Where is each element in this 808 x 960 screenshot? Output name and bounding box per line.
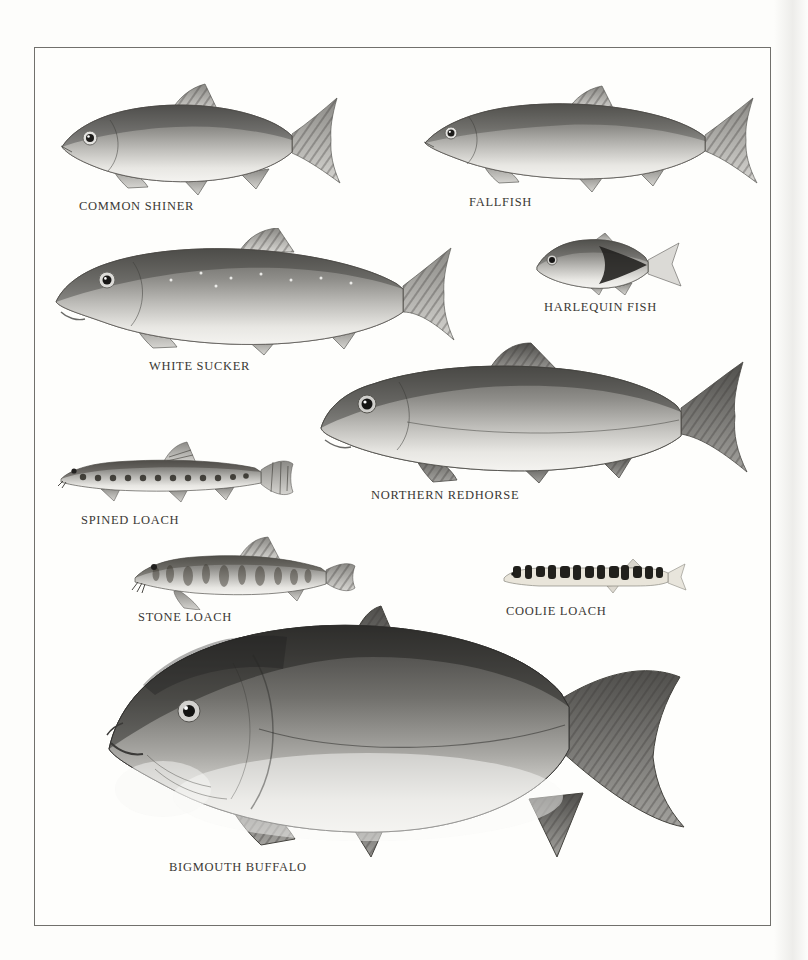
bigmouth-buffalo-eye [178,700,200,722]
spined-loach-illustration [57,440,297,508]
bigmouth-buffalo-label: BIGMOUTH BUFFALO [169,860,307,874]
bigmouth-buffalo-body [107,625,569,841]
stone-loach-label: STONE LOACH [138,610,232,624]
spined-loach-body [58,460,261,491]
harlequin-fish-illustration [533,233,703,295]
harlequin-fish-eye [547,255,557,265]
fallfish-body [424,104,705,179]
field-guide-plate-page: COMMON SHINER FALLFISH WHITE SUCKER HARL… [0,0,808,960]
northern-redhorse-body [321,366,681,471]
common-shiner-body [61,105,292,182]
plate-frame: COMMON SHINER FALLFISH WHITE SUCKER HARL… [34,47,771,926]
common-shiner-illustration [56,83,346,205]
bigmouth-buffalo-illustration [103,599,698,863]
coolie-loach-body [504,565,668,586]
fallfish-label: FALLFISH [469,195,532,209]
coolie-loach-illustration [501,558,695,594]
white-sucker-eye [99,272,115,288]
page-edge-shadow [774,0,808,960]
northern-redhorse-illustration [315,342,755,484]
white-sucker-body [56,249,403,345]
spined-loach-label: SPINED LOACH [81,513,179,527]
coolie-loach-eye [511,572,515,576]
common-shiner-label: COMMON SHINER [79,199,194,213]
white-sucker-illustration [51,228,457,356]
harlequin-fish-label: HARLEQUIN FISH [544,300,657,314]
white-sucker-label: WHITE SUCKER [149,359,250,373]
common-shiner-eye [83,131,97,145]
stone-loach-body [132,556,326,595]
coolie-loach-label: COOLIE LOACH [506,604,606,618]
northern-redhorse-label: NORTHERN REDHORSE [371,488,519,502]
spined-loach-eye [71,468,76,473]
northern-redhorse-eye [358,395,376,413]
fallfish-eye [445,127,457,139]
fallfish-illustration [419,85,767,197]
stone-loach-eye [151,564,157,570]
